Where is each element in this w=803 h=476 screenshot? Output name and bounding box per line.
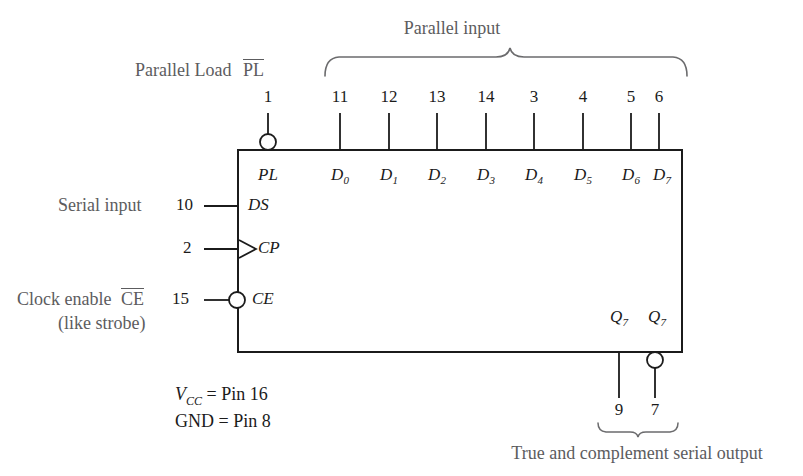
port-label-ds: DS [248,195,269,215]
port-label-d2: D2 [428,165,446,186]
pin-number-2: 2 [183,238,192,258]
vcc-line: VCC = Pin 16 [175,382,271,409]
clock-enable-note: (like strobe) [58,313,145,334]
port-label-pl: PL [258,165,278,185]
parallel-input-brace [325,48,687,76]
q7-complement-inversion-bubble [647,352,663,368]
pin-number-1: 1 [264,87,273,107]
serial-output-caption: True and complement serial output [511,443,762,464]
clock-enable-signal-overbar: CE [121,289,144,310]
serial-input-label: Serial input [58,195,142,216]
port-label-cp: CP [258,238,280,258]
clock-enable-inversion-bubble [229,292,245,308]
clock-enable-text: Clock enable [17,289,111,309]
shift-register-diagram: Parallel input Parallel Load PL 1 11 12 … [0,0,803,476]
vcc-symbol: V [175,384,186,404]
port-label-d3: D3 [477,165,495,186]
port-label-d7: D7 [653,165,671,186]
port-label-d5: D5 [574,165,592,186]
power-supply-notes: VCC = Pin 16 GND = Pin 8 [175,382,271,433]
pin-number-15: 15 [172,289,189,309]
port-label-d6: D6 [622,165,640,186]
pin-number-6: 6 [655,87,664,107]
pin-number-11: 11 [332,87,348,107]
port-label-d0: D0 [331,165,349,186]
pin-number-7: 7 [651,400,660,420]
parallel-load-label: Parallel Load PL [135,60,264,81]
vcc-subscript: CC [186,394,202,408]
port-label-q7-true: Q7 [610,307,628,328]
parallel-load-signal-overbar: PL [243,60,264,81]
pin-number-3: 3 [530,87,539,107]
port-label-q7-complement: Q7 [648,307,666,328]
pin-number-12: 12 [381,87,398,107]
pin-number-10: 10 [176,195,193,215]
gnd-line: GND = Pin 8 [175,409,271,433]
parallel-input-label: Parallel input [404,18,500,39]
port-label-ce: CE [252,289,274,309]
port-label-d1: D1 [380,165,398,186]
pin-number-9: 9 [615,400,624,420]
diagram-vector-layer [0,0,803,476]
port-label-d4: D4 [525,165,543,186]
parallel-load-inversion-bubble [260,134,276,150]
pin-number-14: 14 [478,87,495,107]
clock-enable-label: Clock enable CE [17,289,144,310]
parallel-load-text: Parallel Load [135,60,231,80]
serial-output-brace [598,423,678,437]
vcc-value: = Pin 16 [207,384,268,404]
pin-number-4: 4 [579,87,588,107]
pin-number-13: 13 [429,87,446,107]
pin-number-5: 5 [627,87,636,107]
